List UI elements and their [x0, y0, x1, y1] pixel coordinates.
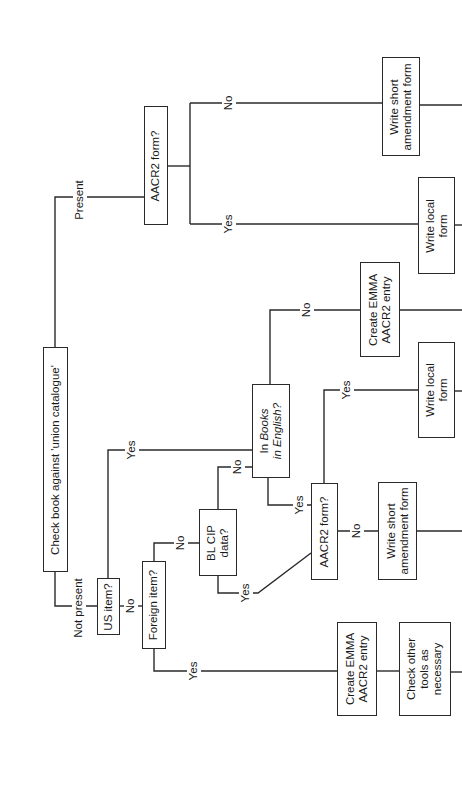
- line-2-italic: in English?: [271, 403, 283, 459]
- us-item-label: US item?: [102, 583, 115, 630]
- bl-cip-data-label: BL CIP data?: [205, 524, 231, 560]
- yes-text: Yes: [222, 215, 235, 234]
- no-text: No: [350, 524, 363, 539]
- check-other-tools-label: Check other tools as necessary: [405, 638, 445, 700]
- line-1-italic: Books: [258, 409, 270, 441]
- no-text: No: [300, 303, 313, 318]
- aacr2-form-top-label: AACR2 form?: [149, 130, 162, 201]
- edge-label-not-present: Not present: [72, 578, 86, 638]
- books-in-english-box: In Books in English?: [252, 384, 290, 478]
- line-2: AACR2 entry: [380, 276, 392, 343]
- edge-label-aacr2-lower-yes: Yes: [340, 378, 354, 402]
- bl-cip-data-box: BL CIP data?: [199, 509, 237, 576]
- not-present-text: Not present: [72, 578, 85, 637]
- create-emma-entry-bottom-label: Create EMMA AACR2 entry: [344, 633, 370, 705]
- edge-label-us-no: No: [124, 596, 138, 616]
- write-local-form-mid-box: Write local form: [418, 342, 455, 438]
- line-1: Write local: [423, 199, 435, 252]
- present-text: Present: [73, 180, 86, 220]
- yes-text: Yes: [340, 381, 353, 400]
- line-2: form: [437, 379, 449, 402]
- check-union-catalogue-label: Check book against 'union catalogue': [49, 365, 62, 555]
- line-2: amendment form: [401, 63, 413, 150]
- line-2: amendment form: [398, 488, 410, 575]
- write-local-form-top-box: Write local form: [418, 177, 455, 274]
- us-item-box: US item?: [97, 578, 120, 635]
- edge-label-aacr2-top-no: No: [222, 92, 236, 114]
- no-text: No: [124, 599, 137, 614]
- aacr2-form-lower-label: AACR2 form?: [318, 496, 331, 567]
- line-2: form: [437, 214, 449, 237]
- yes-text: Yes: [239, 584, 252, 603]
- yes-text: Yes: [293, 496, 306, 515]
- write-local-form-top-label: Write local form: [423, 199, 449, 252]
- line-1: BL CIP: [205, 524, 217, 560]
- line-1: Check other: [405, 638, 417, 700]
- create-emma-entry-mid-box: Create EMMA AACR2 entry: [360, 262, 400, 357]
- line-2: tools as: [418, 649, 430, 689]
- edge-label-aacr2-top-yes: Yes: [222, 212, 236, 236]
- check-union-catalogue-box: Check book against 'union catalogue': [43, 347, 68, 572]
- yes-text: Yes: [187, 662, 200, 681]
- foreign-item-label: Foreign item?: [147, 570, 160, 640]
- line-1: Write short: [384, 503, 396, 558]
- line-3: necessary: [432, 643, 444, 695]
- line-1-prefix: In: [258, 441, 270, 454]
- aacr2-form-top-box: AACR2 form?: [144, 106, 168, 225]
- foreign-item-box: Foreign item?: [142, 561, 166, 649]
- edge-label-foreign-yes: Yes: [187, 659, 201, 683]
- write-local-form-mid-label: Write local form: [423, 363, 449, 416]
- edge-label-bie-no: No: [300, 300, 314, 320]
- write-short-amendment-lower-label: Write short amendment form: [384, 488, 410, 575]
- edge-label-foreign-no: No: [174, 533, 188, 553]
- line-1: Create EMMA: [344, 633, 356, 705]
- edge-label-us-yes: Yes: [125, 438, 139, 462]
- write-short-amendment-top-box: Write short amendment form: [382, 57, 420, 156]
- line-1: Write local: [423, 363, 435, 416]
- check-other-tools-box: Check other tools as necessary: [399, 622, 451, 716]
- edge-label-present: Present: [73, 180, 87, 220]
- line-2: data?: [218, 528, 230, 557]
- no-text: No: [174, 536, 187, 551]
- create-emma-entry-mid-label: Create EMMA AACR2 entry: [367, 273, 393, 345]
- books-in-english-label: In Books in English?: [258, 403, 284, 459]
- create-emma-entry-bottom-box: Create EMMA AACR2 entry: [337, 622, 377, 716]
- no-text: No: [231, 460, 244, 475]
- aacr2-form-lower-box: AACR2 form?: [311, 483, 338, 580]
- write-short-amendment-lower-box: Write short amendment form: [378, 482, 417, 580]
- write-short-amendment-top-label: Write short amendment form: [388, 63, 414, 150]
- edge-label-bl-cip-no: No: [231, 457, 245, 477]
- no-text: No: [222, 96, 235, 111]
- line-1: Write short: [388, 79, 400, 134]
- yes-text: Yes: [125, 441, 138, 460]
- edge-label-aacr2-lower-no: No: [350, 521, 364, 541]
- line-1: Create EMMA: [367, 273, 379, 345]
- edge-label-bl-cip-yes: Yes: [239, 581, 253, 605]
- line-2: AACR2 entry: [357, 635, 369, 702]
- edge-label-bie-yes: Yes: [293, 493, 307, 517]
